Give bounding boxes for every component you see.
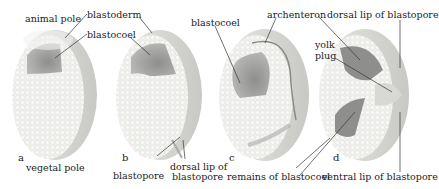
- panel-letter-d: d: [333, 152, 339, 163]
- embryo-a: [12, 30, 97, 160]
- panel-letter-a: a: [18, 152, 24, 163]
- label-dorsal-lip-b-line2: blastopore: [172, 172, 223, 182]
- embryo-c: [219, 29, 309, 161]
- label-blastocoel: blastocoel: [87, 30, 136, 40]
- label-blastopore: blastopore: [113, 171, 164, 181]
- label-vegetal-pole: vegetal pole: [26, 163, 85, 173]
- panel-letter-c: c: [229, 152, 235, 163]
- label-ventral-lip: ventral lip of blastopore: [322, 172, 438, 182]
- label-archenteron: archenteron: [267, 10, 326, 20]
- label-remains-of-blastocoel: remains of blastocoel: [227, 172, 330, 182]
- embryo-b: [116, 30, 202, 160]
- label-dorsal-lip-d: dorsal lip of blastopore: [327, 10, 439, 20]
- panel-letter-b: b: [122, 152, 128, 163]
- label-yolk: yolk: [315, 40, 335, 50]
- label-blastoderm: blastoderm: [87, 10, 141, 20]
- label-animal-pole: animal pole: [25, 14, 81, 24]
- label-plug: plug: [315, 51, 336, 61]
- label-blastocoel-c: blastocoel: [191, 18, 240, 28]
